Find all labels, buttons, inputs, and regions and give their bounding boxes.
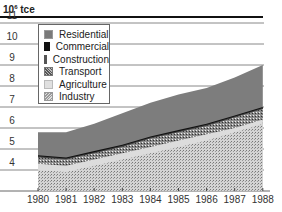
industry-swatch-icon <box>44 92 53 101</box>
legend-item-residential: Residential <box>44 28 109 41</box>
y-tick-label: 10 <box>6 31 18 42</box>
x-tick-label: 1985 <box>167 194 190 205</box>
y-tick-label: 5 <box>9 136 15 147</box>
x-tick-label: 1983 <box>111 194 134 205</box>
y-axis-ticks: 1110987654 <box>6 10 18 168</box>
agriculture-swatch-icon <box>44 80 53 89</box>
transport-swatch-icon <box>44 67 53 76</box>
y-tick-label: 8 <box>9 73 15 84</box>
x-tick-label: 1982 <box>83 194 106 205</box>
legend: Residential Commercial Construction Tran… <box>38 24 110 104</box>
legend-item-agriculture: Agriculture <box>44 78 109 91</box>
legend-item-industry: Industry <box>44 91 109 104</box>
x-tick-label: 1984 <box>139 194 162 205</box>
y-tick-label: 6 <box>9 115 15 126</box>
y-tick-label: 11 <box>7 10 18 21</box>
x-tick-label: 1988 <box>252 194 275 205</box>
legend-item-transport: Transport <box>44 66 109 79</box>
x-tick-label: 1981 <box>55 194 78 205</box>
y-tick-label: 7 <box>9 94 15 105</box>
residential-swatch-icon <box>44 30 53 39</box>
x-tick-label: 1987 <box>224 194 247 205</box>
y-tick-label: 4 <box>9 157 15 168</box>
x-tick-label: 1986 <box>195 194 218 205</box>
construction-swatch-icon <box>44 55 47 64</box>
y-tick-label: 9 <box>9 52 15 63</box>
legend-item-construction: Construction <box>44 53 109 66</box>
commercial-swatch-icon <box>44 42 50 51</box>
legend-item-commercial: Commercial <box>44 41 109 54</box>
x-tick-label: 1980 <box>27 194 50 205</box>
